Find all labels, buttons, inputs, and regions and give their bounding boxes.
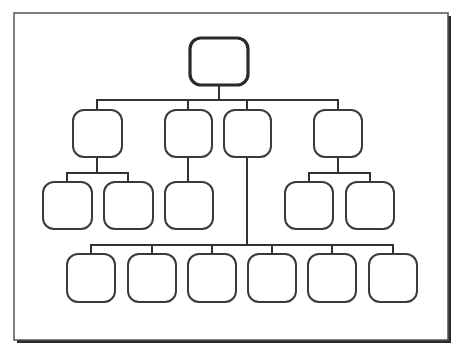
org-node[interactable] <box>73 110 122 157</box>
org-node[interactable] <box>248 254 296 302</box>
root-node[interactable] <box>190 38 248 85</box>
org-node[interactable] <box>188 254 236 302</box>
org-node[interactable] <box>285 182 333 229</box>
node-box[interactable] <box>165 110 212 157</box>
node-box[interactable] <box>248 254 296 302</box>
node-box[interactable] <box>104 182 153 229</box>
org-chart-canvas <box>0 0 461 361</box>
org-chart-diagram <box>0 0 461 361</box>
node-box[interactable] <box>346 182 394 229</box>
node-box[interactable] <box>128 254 176 302</box>
node-box[interactable] <box>369 254 417 302</box>
org-node[interactable] <box>308 254 356 302</box>
org-node[interactable] <box>43 182 92 229</box>
node-box[interactable] <box>190 38 248 85</box>
org-node[interactable] <box>224 110 271 157</box>
org-node[interactable] <box>104 182 153 229</box>
node-box[interactable] <box>165 182 213 229</box>
node-box[interactable] <box>308 254 356 302</box>
org-node[interactable] <box>369 254 417 302</box>
org-node[interactable] <box>346 182 394 229</box>
org-node[interactable] <box>165 182 213 229</box>
org-node[interactable] <box>314 110 362 157</box>
node-box[interactable] <box>224 110 271 157</box>
node-box[interactable] <box>67 254 115 302</box>
node-box[interactable] <box>314 110 362 157</box>
node-box[interactable] <box>285 182 333 229</box>
org-node[interactable] <box>67 254 115 302</box>
node-box[interactable] <box>188 254 236 302</box>
org-node[interactable] <box>128 254 176 302</box>
org-node[interactable] <box>165 110 212 157</box>
node-box[interactable] <box>43 182 92 229</box>
node-box[interactable] <box>73 110 122 157</box>
